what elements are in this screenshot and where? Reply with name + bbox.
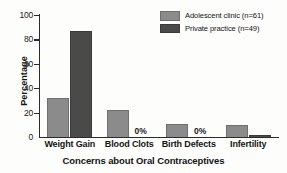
legend-label-private-practice: Private practice (n=49)	[185, 24, 259, 33]
x-axis-tick-label: Birth Defects	[159, 139, 219, 149]
zero-value-annotation: 0%	[194, 126, 206, 136]
x-axis-category-labels: Weight GainBlood ClotsBirth DefectsInfer…	[40, 139, 278, 149]
y-tick-label-100: 100	[19, 10, 33, 20]
y-tick-label-60: 60	[24, 59, 33, 69]
bar[interactable]	[70, 31, 92, 137]
legend-item-private-practice: Private practice (n=49)	[160, 24, 263, 34]
x-axis-title: Concerns about Oral Contraceptives	[0, 155, 287, 166]
legend-swatch-icon-private-practice	[160, 24, 180, 34]
legend-item-adolescent-clinic: Adolescent clinic (n=61)	[160, 11, 263, 21]
legend-swatch-icon-adolescent-clinic	[160, 11, 180, 21]
bar-group: 0%	[100, 15, 160, 137]
bar[interactable]	[166, 124, 188, 137]
x-axis-tick-label: Infertility	[219, 139, 279, 149]
bar[interactable]	[226, 125, 248, 137]
y-tick-label-40: 40	[24, 83, 33, 93]
legend-label-adolescent-clinic: Adolescent clinic (n=61)	[185, 11, 263, 20]
bar[interactable]	[249, 135, 271, 137]
bar-groups: 0%0%	[40, 15, 278, 137]
bar[interactable]	[107, 110, 129, 137]
bar-group	[40, 15, 100, 137]
bar-group: 0%	[159, 15, 219, 137]
y-tick-label-20: 20	[24, 108, 33, 118]
x-axis-tick-label: Blood Clots	[100, 139, 160, 149]
zero-value-annotation: 0%	[135, 126, 147, 136]
chart-legend: Adolescent clinic (n=61) Private practic…	[160, 11, 263, 33]
y-tick-label-0: 0	[28, 132, 33, 142]
bar-chart-figure: Percentage 100 80 60 40 20 0 0%0% Weight…	[0, 0, 287, 173]
bar[interactable]	[47, 98, 69, 137]
x-axis-tick-label: Weight Gain	[40, 139, 100, 149]
y-tick-label-80: 80	[24, 34, 33, 44]
bar-group	[219, 15, 279, 137]
